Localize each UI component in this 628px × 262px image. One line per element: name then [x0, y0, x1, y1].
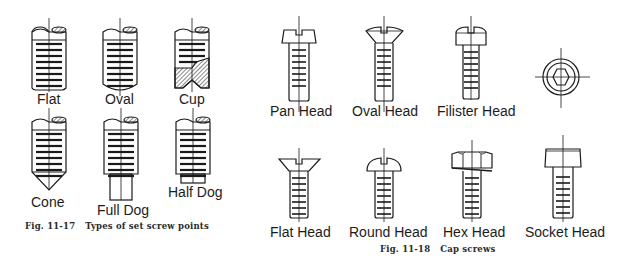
figure-caption-11-18: Fig. 11-18Cap screws	[380, 245, 495, 254]
figure-caption-11-17: Fig. 11-17Types of set screw points	[25, 222, 209, 231]
figure-caption-text: Cap screws	[440, 244, 495, 254]
cap-screw-pan-head-drawing	[282, 16, 316, 112]
set-screw-cup-drawing	[175, 18, 209, 92]
cap-screw-flat-head-drawing	[279, 148, 320, 222]
label-round-head: Round Head	[349, 225, 428, 239]
set-screw-half-dog-drawing	[176, 108, 210, 183]
socket-head-end-view-drawing	[535, 48, 590, 108]
label-filister-head: Filister Head	[437, 104, 516, 118]
cap-screw-round-head-drawing	[367, 148, 401, 222]
cap-screw-oval-head-drawing	[366, 16, 403, 112]
cap-screw-filister-head-drawing	[456, 16, 486, 100]
label-full-dog: Full Dog	[97, 203, 149, 217]
label-hex-head: Hex Head	[443, 225, 505, 239]
set-screw-flat-drawing	[32, 18, 66, 92]
cap-screw-hex-head-drawing	[452, 140, 492, 222]
label-socket-head: Socket Head	[525, 225, 605, 239]
label-oval-head: Oval Head	[352, 104, 418, 118]
set-screw-full-dog-drawing	[104, 108, 138, 200]
cap-screw-socket-head-drawing	[545, 135, 581, 222]
figure-number: Fig. 11-18	[380, 244, 430, 254]
set-screw-oval-drawing	[103, 18, 137, 96]
set-screw-cone-drawing	[32, 108, 66, 190]
label-half-dog: Half Dog	[168, 185, 222, 199]
figure-caption-text: Types of set screw points	[85, 221, 209, 231]
label-oval: Oval	[105, 92, 134, 106]
label-pan-head: Pan Head	[270, 104, 332, 118]
label-flat: Flat	[37, 92, 60, 106]
figure-number: Fig. 11-17	[25, 221, 75, 231]
label-flat-head: Flat Head	[270, 225, 331, 239]
label-cone: Cone	[31, 195, 64, 209]
label-cup: Cup	[179, 92, 205, 106]
